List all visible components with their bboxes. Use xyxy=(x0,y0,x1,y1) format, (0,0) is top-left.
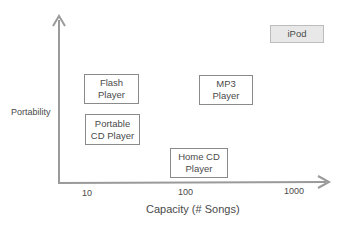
box-line: Home CD xyxy=(178,151,220,163)
portable-cd-player-box: PortableCD Player xyxy=(85,114,140,145)
x-tick-100: 100 xyxy=(178,187,193,197)
ipod-box: iPod xyxy=(270,25,324,43)
box-line: iPod xyxy=(287,28,306,40)
box-line: Player xyxy=(98,89,125,101)
home-cd-player-box: Home CDPlayer xyxy=(170,148,228,178)
box-line: Portable xyxy=(91,118,134,130)
box-line: Player xyxy=(213,90,240,102)
x-tick-10: 10 xyxy=(82,188,92,198)
x-tick-1000: 1000 xyxy=(284,186,304,196)
mp3-player-box: MP3Player xyxy=(199,75,253,105)
box-line: Flash xyxy=(98,77,125,89)
box-line: MP3 xyxy=(213,78,240,90)
box-line: Player xyxy=(178,163,220,175)
x-axis-line xyxy=(58,182,326,183)
y-axis-label: Portability xyxy=(11,107,51,117)
box-line: CD Player xyxy=(91,130,134,142)
x-axis-label: Capacity (# Songs) xyxy=(146,203,240,215)
flash-player-box: FlashPlayer xyxy=(84,74,139,104)
